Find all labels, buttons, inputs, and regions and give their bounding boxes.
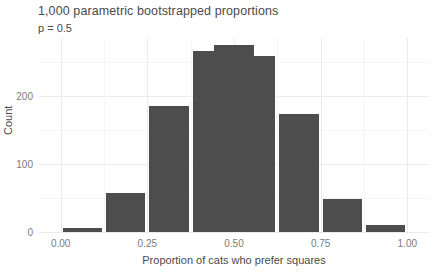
gridline-vertical-minor xyxy=(364,38,365,232)
plot-panel xyxy=(39,38,429,232)
x-tick-label: 0.50 xyxy=(224,238,243,249)
y-tick-label: 200 xyxy=(16,90,33,101)
y-tick-label: 0 xyxy=(27,227,33,238)
histogram-bar xyxy=(149,106,188,232)
x-tick-label: 1.00 xyxy=(398,238,417,249)
gridline-vertical-major xyxy=(407,38,408,232)
x-axis-label: Proportion of cats who prefer squares xyxy=(39,254,429,266)
chart-title: 1,000 parametric bootstrapped proportion… xyxy=(38,4,278,18)
gridline-vertical-minor xyxy=(104,38,105,232)
histogram-bar xyxy=(236,56,275,232)
gridline-vertical-major xyxy=(61,38,62,232)
x-axis-ticks: 0.000.250.500.751.00 xyxy=(39,238,429,252)
histogram-bar xyxy=(63,228,102,232)
y-tick-label: 100 xyxy=(16,158,33,169)
y-axis-ticks: 0100200 xyxy=(0,38,33,232)
x-tick-label: 0.75 xyxy=(311,238,330,249)
y-axis-label: Count xyxy=(2,106,14,135)
histogram-bar xyxy=(279,114,318,232)
gridline-horizontal-major xyxy=(39,232,429,233)
histogram-bar xyxy=(366,225,405,232)
chart-figure: 1,000 parametric bootstrapped proportion… xyxy=(0,0,433,276)
chart-subtitle: p = 0.5 xyxy=(38,22,72,34)
x-tick-label: 0.25 xyxy=(138,238,157,249)
histogram-bar xyxy=(323,199,362,232)
gridline-vertical-major xyxy=(147,38,148,232)
gridline-vertical-minor xyxy=(277,38,278,232)
gridline-vertical-major xyxy=(321,38,322,232)
x-tick-label: 0.00 xyxy=(51,238,70,249)
gridline-vertical-minor xyxy=(191,38,192,232)
histogram-bar xyxy=(106,193,145,232)
